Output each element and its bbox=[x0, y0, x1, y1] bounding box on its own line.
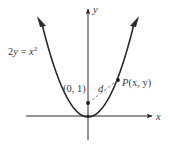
curve-point-label: P(x, y) bbox=[121, 77, 152, 89]
curve-point-p bbox=[116, 78, 120, 82]
vertex-point bbox=[87, 115, 90, 118]
parabola-diagram: 2y = x2 y x (0, 1) d P(x, y) bbox=[0, 0, 169, 145]
equation-label: 2y = x2 bbox=[8, 45, 38, 57]
x-axis-label: x bbox=[155, 111, 161, 122]
y-axis-label: y bbox=[92, 4, 98, 15]
focus-point-label: (0, 1) bbox=[63, 83, 86, 95]
distance-label: d bbox=[98, 83, 104, 94]
focus-point bbox=[86, 101, 90, 105]
curve-arrow-left-icon bbox=[37, 16, 46, 27]
curve-arrow-right-icon bbox=[130, 16, 139, 27]
